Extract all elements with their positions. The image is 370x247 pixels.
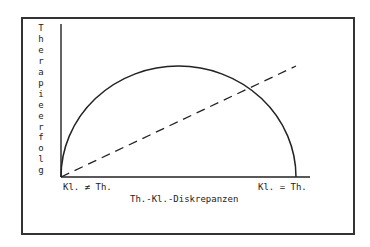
y-label-letter: l	[36, 154, 46, 164]
plot-area	[0, 0, 370, 247]
y-label-letter: e	[36, 45, 46, 55]
x-left-label: Kl. ≠ Th.	[63, 182, 112, 192]
y-label-letter: T	[36, 23, 46, 33]
y-label-letter: e	[36, 100, 46, 110]
x-axis-label: Th.-Kl.-Diskrepanzen	[130, 194, 238, 204]
y-label-letter: g	[36, 165, 46, 175]
y-label-letter: f	[36, 132, 46, 142]
y-label-letter: a	[36, 67, 46, 77]
y-label-letter: r	[36, 56, 46, 66]
x-right-label: Kl. = Th.	[258, 182, 307, 192]
y-label-letter: h	[36, 34, 46, 44]
y-label-letter: o	[36, 143, 46, 153]
y-label-letter: r	[36, 122, 46, 132]
y-label-letter: e	[36, 111, 46, 121]
dashed-diagonal-line	[61, 66, 296, 177]
y-label-letter: p	[36, 78, 46, 88]
y-label-letter: i	[36, 89, 46, 99]
